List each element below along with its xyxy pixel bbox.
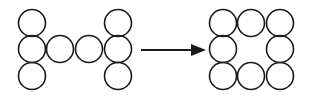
diagram-canvas (0, 0, 312, 101)
before-circle-3 (19, 63, 46, 90)
after-circle-1 (210, 10, 237, 37)
after-circle-5 (267, 36, 294, 63)
after-circle-6 (210, 63, 237, 90)
before-circle-7 (105, 36, 132, 63)
after-circle-7 (238, 63, 265, 90)
before-circle-1 (19, 10, 46, 37)
transformation-diagram (0, 0, 312, 101)
before-circle-2 (19, 36, 46, 63)
after-circle-8 (267, 63, 294, 90)
after-circle-2 (238, 10, 265, 37)
before-circle-6 (105, 10, 132, 37)
before-h-shape-group (19, 10, 132, 90)
before-circle-4 (47, 36, 74, 63)
after-circle-3 (267, 10, 294, 37)
before-circle-5 (76, 36, 103, 63)
after-circle-4 (210, 36, 237, 63)
arrow-head-icon (191, 44, 206, 56)
after-square-ring-group (210, 10, 294, 90)
before-circle-8 (105, 63, 132, 90)
transformation-arrow (141, 44, 206, 56)
